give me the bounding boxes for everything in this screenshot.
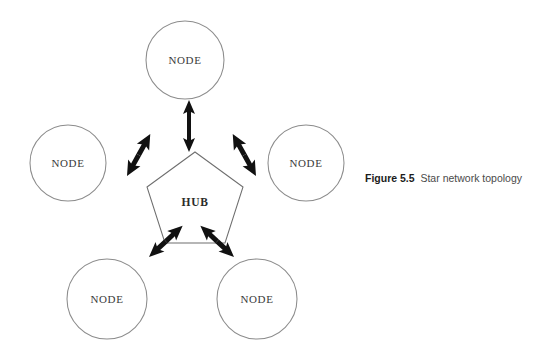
link-arrow-hub-to-right	[227, 131, 263, 180]
node-label-left: NODE	[52, 157, 85, 169]
arrow-head-up	[183, 100, 195, 126]
node-bottom-right[interactable]: NODE	[217, 259, 297, 339]
node-label-bottom-left: NODE	[91, 293, 124, 305]
node-label-bottom-right: NODE	[241, 293, 274, 305]
arrow-head-outward	[121, 152, 145, 180]
arrow-head-outward	[238, 152, 262, 180]
link-arrow-hub-to-left	[121, 131, 157, 180]
node-left[interactable]: NODE	[30, 125, 106, 201]
hub-label: HUB	[181, 196, 208, 208]
figure-caption-text: Star network topology	[420, 172, 522, 184]
arrow-head-inward	[227, 131, 251, 159]
figure-container: HUB NODE NODE NODE NODE NODE	[0, 0, 553, 362]
node-label-top: NODE	[169, 54, 202, 66]
arrow-head-inward	[133, 131, 157, 159]
figure-caption-label: Figure 5.5	[365, 172, 415, 184]
hub-group: HUB	[147, 152, 243, 243]
link-arrow-hub-to-top	[183, 100, 195, 152]
figure-caption: Figure 5.5 Star network topology	[365, 171, 547, 185]
node-label-right: NODE	[290, 157, 323, 169]
node-right[interactable]: NODE	[268, 125, 344, 201]
node-bottom-left[interactable]: NODE	[67, 259, 147, 339]
arrow-head-down	[183, 126, 195, 152]
node-top[interactable]: NODE	[146, 21, 224, 99]
